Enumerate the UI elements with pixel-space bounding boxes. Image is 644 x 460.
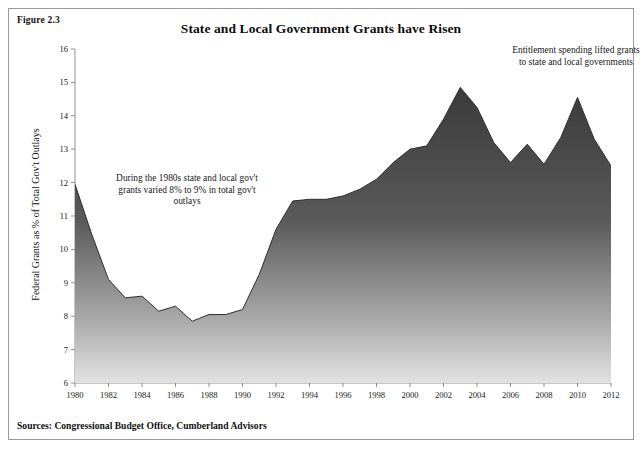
- x-tick-label: 1994: [301, 390, 319, 400]
- y-axis-ticks: 678910111213141516: [59, 44, 75, 388]
- chart-plot-area: 678910111213141516 198019821984198619881…: [9, 9, 635, 441]
- x-tick-label: 1992: [267, 390, 284, 400]
- series-area-group: [75, 87, 611, 383]
- x-tick-label: 1980: [66, 390, 83, 400]
- x-tick-label: 1988: [200, 390, 217, 400]
- x-axis-ticks: 1980198219841986198819901992199419961998…: [66, 383, 619, 400]
- x-tick-label: 2010: [569, 390, 586, 400]
- figure-card: Figure 2.3 State and Local Government Gr…: [8, 8, 634, 440]
- x-tick-label: 1986: [167, 390, 185, 400]
- x-tick-label: 2004: [468, 390, 486, 400]
- x-tick-label: 2006: [502, 390, 520, 400]
- area-chart-svg: 678910111213141516 198019821984198619881…: [9, 9, 635, 441]
- x-tick-label: 1998: [368, 390, 385, 400]
- y-axis-title: Federal Grants as % of Total Gov't Outla…: [30, 85, 41, 345]
- y-tick-label: 14: [59, 111, 68, 121]
- x-tick-label: 1996: [334, 390, 352, 400]
- y-tick-label: 12: [59, 178, 68, 188]
- x-tick-label: 1990: [234, 390, 251, 400]
- x-tick-label: 2002: [435, 390, 452, 400]
- annotation-1980s-range: During the 1980s state and local gov't g…: [109, 173, 265, 208]
- x-tick-label: 2000: [401, 390, 418, 400]
- y-tick-label: 10: [59, 244, 68, 254]
- y-tick-label: 8: [64, 311, 68, 321]
- annotation-entitlement-spending: Entitlement spending lifted grants to st…: [509, 45, 643, 68]
- x-tick-label: 1984: [133, 390, 151, 400]
- y-tick-label: 9: [64, 278, 68, 288]
- y-tick-label: 6: [64, 378, 69, 388]
- series-area-federal-grants: [75, 87, 611, 383]
- y-tick-label: 7: [64, 345, 69, 355]
- y-tick-label: 11: [60, 211, 68, 221]
- x-tick-label: 2012: [602, 390, 619, 400]
- y-tick-label: 15: [59, 77, 68, 87]
- y-tick-label: 13: [59, 144, 68, 154]
- sources-note: Sources: Congressional Budget Office, Cu…: [17, 420, 267, 431]
- y-tick-label: 16: [59, 44, 68, 54]
- x-tick-label: 2008: [535, 390, 552, 400]
- x-tick-label: 1982: [100, 390, 117, 400]
